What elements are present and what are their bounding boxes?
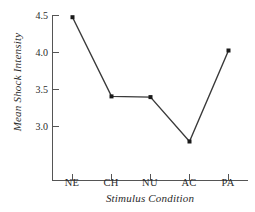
x-tick-label: CH — [91, 177, 131, 188]
x-tick-label: AC — [169, 177, 209, 188]
x-tick-label: NU — [130, 177, 170, 188]
x-tick-label: PA — [208, 177, 248, 188]
data-point-marker — [149, 95, 153, 99]
data-point-marker — [188, 140, 192, 144]
data-point-marker — [110, 94, 114, 98]
x-tick-label: NE — [52, 177, 92, 188]
x-axis-tick-labels: NE CH NU AC PA — [0, 177, 255, 193]
chart-figure: Mean Shock Intensity 4.5 4.0 3.5 3.0 NE … — [0, 0, 255, 212]
data-point-marker — [227, 49, 231, 53]
data-markers — [71, 15, 231, 143]
x-axis-label: Stimulus Condition — [50, 192, 250, 204]
data-point-marker — [71, 15, 75, 19]
data-line — [73, 17, 229, 141]
